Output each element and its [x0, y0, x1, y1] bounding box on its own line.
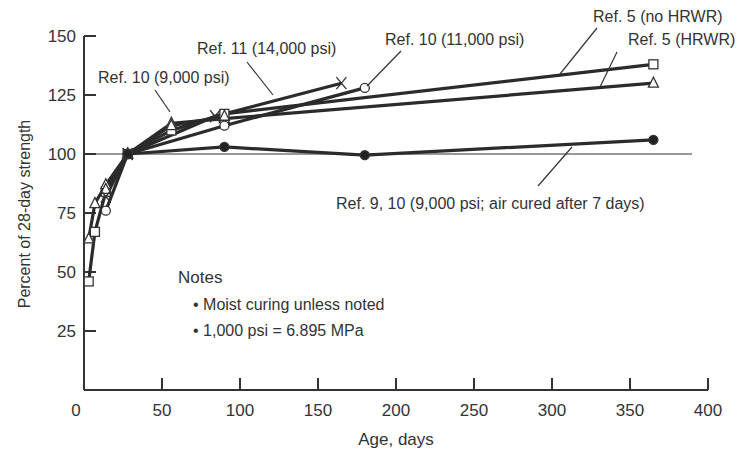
- x-tick-label: 50: [153, 401, 172, 420]
- leader-line: [155, 90, 170, 112]
- label-ref11-14000: Ref. 11 (14,000 psi): [197, 40, 336, 57]
- data-point-square: [649, 60, 658, 69]
- y-tick-label: 25: [57, 322, 76, 341]
- y-axis-label: Percent of 28-day strength: [16, 120, 33, 309]
- note-psi-conversion: • 1,000 psi = 6.895 MPa: [193, 322, 364, 339]
- label-ref5-hrwr: Ref. 5 (HRWR): [628, 31, 735, 48]
- data-point-circle-filled: [220, 142, 229, 151]
- data-point-square: [84, 277, 93, 286]
- label-ref9-10-air: Ref. 9, 10 (9,000 psi; air cured after 7…: [336, 195, 645, 212]
- y-tick-label: 125: [48, 86, 76, 105]
- series-markers: [84, 60, 659, 286]
- x-tick-label: 350: [616, 401, 644, 420]
- x-tick-label: 100: [226, 401, 254, 420]
- y-tick-label: 50: [57, 263, 76, 282]
- note-moist-curing: • Moist curing unless noted: [193, 296, 384, 313]
- data-point-circle-open: [220, 121, 229, 130]
- x-tick-label: 300: [538, 401, 566, 420]
- axes: [84, 36, 708, 390]
- y-tick-label: 75: [57, 204, 76, 223]
- notes-title: Notes: [178, 268, 222, 287]
- y-tick-label: 150: [48, 27, 76, 46]
- data-point-square: [90, 227, 99, 236]
- leader-line: [247, 62, 273, 95]
- series-line: [89, 83, 654, 239]
- x-tick-label: 0: [71, 401, 80, 420]
- label-ref5-no-hrwr: Ref. 5 (no HRWR): [593, 8, 723, 25]
- x-tick-label: 400: [694, 401, 722, 420]
- series-line: [106, 83, 342, 196]
- data-point-circle-open: [101, 206, 110, 215]
- series-lines: [89, 64, 654, 281]
- series-line: [106, 88, 365, 211]
- label-ref10-9000: Ref. 10 (9,000 psi): [98, 69, 230, 86]
- data-point-circle-filled: [123, 150, 132, 159]
- y-tick-label: 100: [48, 145, 76, 164]
- leader-line: [538, 147, 572, 186]
- data-point-circle-filled: [360, 151, 369, 160]
- x-tick-label: 150: [304, 401, 332, 420]
- series-line: [128, 140, 654, 155]
- x-axis-label: Age, days: [358, 430, 434, 449]
- series-line: [89, 64, 654, 281]
- x-tick-label: 250: [460, 401, 488, 420]
- x-tick-label: 200: [382, 401, 410, 420]
- leader-line: [367, 51, 401, 86]
- leader-line: [560, 28, 597, 74]
- label-ref10-11000: Ref. 10 (11,000 psi): [385, 31, 524, 48]
- strength-chart: 050100150200250300350400255075100125150 …: [0, 0, 754, 462]
- data-point-circle-filled: [649, 135, 658, 144]
